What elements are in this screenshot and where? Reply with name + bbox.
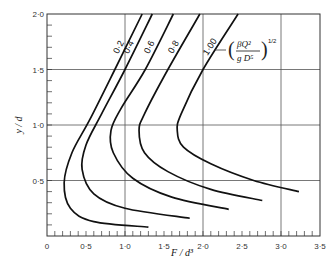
x-tick-label: 3·0 [275, 242, 287, 251]
x-tick-label: 1·5 [158, 242, 170, 251]
y-tick-labels: 0·51·01·52·0 [32, 10, 44, 186]
y-tick-label: 2·0 [32, 10, 44, 19]
curve-label: 0·8 [166, 39, 181, 55]
grid-lines [47, 14, 320, 236]
y-tick-label: 1·5 [32, 66, 44, 75]
x-tick-label: 2·5 [236, 242, 248, 251]
param-exponent: 1/2 [268, 38, 277, 44]
y-tick-label: 1·0 [32, 121, 44, 130]
tick-marks [47, 25, 312, 236]
chart: 00·51·01·52·02·53·03·5 0·51·01·52·0 0·20… [0, 0, 332, 277]
y-axis-title: y / d [13, 115, 24, 134]
svg-text:(: ( [228, 38, 235, 61]
x-axis-title: F / d³ [170, 247, 194, 258]
x-tick-label: 0 [45, 242, 50, 251]
y-tick-label: 0·5 [32, 177, 44, 186]
x-tick-label: 1·0 [119, 242, 131, 251]
param-denominator: g D⁵ [237, 53, 253, 63]
param-numerator: βQ² [236, 39, 251, 49]
x-tick-label: 3·5 [314, 242, 326, 251]
x-tick-label: 2·0 [197, 242, 209, 251]
parameter-legend: ( βQ² g D⁵ ) 1/2 [215, 38, 277, 63]
x-tick-label: 0·5 [80, 242, 92, 251]
svg-text:): ) [261, 38, 268, 61]
